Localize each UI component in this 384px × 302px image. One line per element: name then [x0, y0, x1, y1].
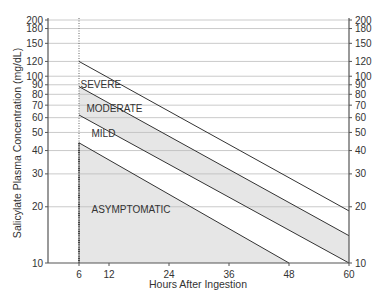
- x-tick-label: 12: [103, 269, 115, 280]
- y-tick-label-right: 120: [355, 56, 372, 67]
- y-tick-label-left: 80: [32, 89, 44, 100]
- x-tick-label: 48: [283, 269, 295, 280]
- y-tick-label-right: 30: [355, 168, 367, 179]
- y-axis-label: Salicylate Plasma Concentration (mg/dL): [11, 48, 23, 238]
- y-tick-label-right: 50: [355, 127, 367, 138]
- y-tick-label-right: 70: [355, 100, 367, 111]
- salicylate-nomogram-chart: 1010202030304040505060607070808090901001…: [0, 0, 384, 302]
- y-tick-label-left: 10: [32, 258, 44, 269]
- mild-label: MILD: [92, 128, 116, 139]
- y-tick-label-left: 100: [26, 71, 43, 82]
- y-tick-label-right: 150: [355, 38, 372, 49]
- y-tick-label-left: 120: [26, 56, 43, 67]
- x-tick-label: 6: [76, 269, 82, 280]
- asymptomatic-label: ASYMPTOMATIC: [92, 204, 171, 215]
- y-tick-label-right: 80: [355, 89, 367, 100]
- y-tick-label-right: 40: [355, 145, 367, 156]
- severe-label: SEVERE: [81, 79, 122, 90]
- y-tick-label-right: 100: [355, 71, 372, 82]
- y-tick-label-left: 200: [26, 15, 43, 26]
- y-tick-label-left: 150: [26, 38, 43, 49]
- y-tick-label-right: 20: [355, 201, 367, 212]
- y-tick-label-left: 60: [32, 112, 44, 123]
- y-tick-label-left: 20: [32, 201, 44, 212]
- y-tick-label-right: 10: [355, 258, 367, 269]
- x-axis-label: Hours After Ingestion: [149, 278, 247, 290]
- y-tick-label-left: 70: [32, 100, 44, 111]
- y-tick-label-left: 50: [32, 127, 44, 138]
- y-tick-label-left: 30: [32, 168, 44, 179]
- moderate-label: MODERATE: [87, 103, 143, 114]
- y-tick-label-left: 40: [32, 145, 44, 156]
- x-tick-label: 60: [343, 269, 355, 280]
- y-tick-label-right: 60: [355, 112, 367, 123]
- y-tick-label-right: 200: [355, 15, 372, 26]
